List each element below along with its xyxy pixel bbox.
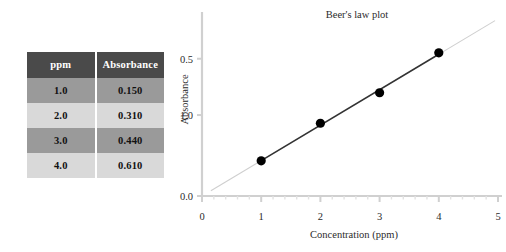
cell-ppm: 3.0 bbox=[27, 128, 96, 153]
x-tick-label: 5 bbox=[495, 211, 500, 222]
cell-absorbance: 0.150 bbox=[96, 78, 165, 103]
table-header: ppm Absorbance bbox=[27, 52, 164, 78]
cell-absorbance: 0.610 bbox=[96, 153, 165, 178]
cell-absorbance: 0.440 bbox=[96, 128, 165, 153]
table-row: 3.0 0.440 bbox=[27, 128, 164, 153]
data-point-marker bbox=[257, 156, 266, 165]
data-point-marker bbox=[434, 48, 443, 57]
y-tick-label: 1.0 bbox=[180, 110, 193, 121]
cell-absorbance: 0.310 bbox=[96, 103, 165, 128]
cell-ppm: 4.0 bbox=[27, 153, 96, 178]
x-tick-label: 2 bbox=[318, 211, 323, 222]
table-header-row: ppm Absorbance bbox=[27, 52, 164, 78]
table-body: 1.0 0.150 2.0 0.310 3.0 0.440 4.0 0.610 bbox=[27, 78, 164, 178]
beers-law-chart: Beer's law plot Absorbance Concentration… bbox=[168, 0, 506, 252]
trendline bbox=[261, 54, 439, 160]
x-tick-label: 4 bbox=[436, 211, 442, 222]
data-table: ppm Absorbance 1.0 0.150 2.0 0.310 3.0 0… bbox=[27, 52, 164, 178]
table-row: 1.0 0.150 bbox=[27, 78, 164, 103]
y-tick-label: 0.0 bbox=[180, 191, 193, 202]
table-row: 4.0 0.610 bbox=[27, 153, 164, 178]
y-tick-label: 0.5 bbox=[180, 54, 193, 65]
cell-ppm: 2.0 bbox=[27, 103, 96, 128]
x-tick-label: 3 bbox=[377, 211, 382, 222]
absorbance-data-table: ppm Absorbance 1.0 0.150 2.0 0.310 3.0 0… bbox=[27, 52, 164, 178]
data-point-marker bbox=[316, 119, 325, 128]
column-header-ppm: ppm bbox=[27, 52, 96, 78]
x-tick-label: 1 bbox=[259, 211, 264, 222]
data-point-marker bbox=[375, 88, 384, 97]
x-tick-label: 0 bbox=[199, 211, 204, 222]
plot-area: 0.01.00.5012345 bbox=[168, 0, 506, 252]
table-row: 2.0 0.310 bbox=[27, 103, 164, 128]
cell-ppm: 1.0 bbox=[27, 78, 96, 103]
column-header-absorbance: Absorbance bbox=[96, 52, 165, 78]
